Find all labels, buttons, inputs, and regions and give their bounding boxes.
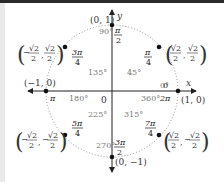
svg-text:): ) xyxy=(201,129,210,154)
svg-text:2: 2 xyxy=(173,54,178,63)
rad-3pi-2-num: 3π xyxy=(115,138,126,147)
coord-1-0: (1, 0) xyxy=(181,95,205,105)
point-270 xyxy=(110,155,115,160)
rad-7pi-4-den: 4 xyxy=(148,129,153,138)
coord-0-neg1: (0, −1) xyxy=(115,157,147,167)
svg-text:√2: √2 xyxy=(48,131,58,140)
rad-3pi-2-den: 2 xyxy=(117,148,122,157)
svg-text:2: 2 xyxy=(29,141,34,150)
svg-text:√2: √2 xyxy=(27,131,37,140)
coord-q2: ( − √2 2 , √2 2 ) xyxy=(17,42,65,67)
svg-text:√2: √2 xyxy=(171,44,181,53)
svg-text:,: , xyxy=(183,51,186,60)
coord-0-1: (0, 1) xyxy=(90,15,114,25)
svg-text:√2: √2 xyxy=(190,131,200,140)
deg-360: 360° xyxy=(141,94,160,103)
deg-270: 270° xyxy=(96,141,115,150)
svg-text:,: , xyxy=(38,138,41,147)
svg-text:,: , xyxy=(41,51,44,60)
svg-text:2: 2 xyxy=(171,141,176,150)
coord-q3: ( − √2 2 , − √2 2 ) xyxy=(15,129,68,154)
svg-text:√2: √2 xyxy=(29,44,39,53)
rad-pi-4-num: π xyxy=(144,48,151,57)
point-0 xyxy=(176,89,181,94)
svg-text:2: 2 xyxy=(190,54,195,63)
unit-circle-diagram: y x 0 0° 360° 45° 90° 135° 180° 225° 270… xyxy=(0,0,224,182)
svg-text:√2: √2 xyxy=(188,44,198,53)
point-45 xyxy=(157,45,162,50)
x-axis-label: x xyxy=(186,78,191,88)
deg-90: 90° xyxy=(99,27,113,36)
svg-text:): ) xyxy=(59,129,68,154)
rad-0: 0 xyxy=(163,81,168,90)
deg-180: 180° xyxy=(69,94,88,103)
rad-pi-4-den: 4 xyxy=(146,58,151,67)
svg-text:,: , xyxy=(180,138,183,147)
origin-label: 0 xyxy=(101,95,107,105)
svg-text:): ) xyxy=(199,42,208,67)
deg-315: 315° xyxy=(124,110,143,119)
rad-3pi-4-num: 3π xyxy=(72,48,83,57)
rad-5pi-4-num: 5π xyxy=(72,119,83,128)
svg-text:√2: √2 xyxy=(45,44,55,53)
svg-text:2: 2 xyxy=(47,54,52,63)
rad-3pi-4-den: 4 xyxy=(75,58,80,67)
svg-text:2: 2 xyxy=(192,141,197,150)
rad-pi-2-num: π xyxy=(114,26,121,35)
deg-225: 225° xyxy=(88,110,107,119)
rad-pi: π xyxy=(49,94,56,103)
rad-7pi-4-num: 7π xyxy=(145,119,156,128)
point-315 xyxy=(157,133,162,138)
point-180 xyxy=(44,89,49,94)
rad-pi-2-den: 2 xyxy=(116,36,121,45)
y-axis-label: y xyxy=(116,11,123,21)
svg-text:√2: √2 xyxy=(169,131,179,140)
deg-45: 45° xyxy=(127,68,141,77)
svg-text:2: 2 xyxy=(50,141,55,150)
coord-neg1-0: (−1, 0) xyxy=(24,78,56,88)
coord-q1: ( √2 2 , √2 2 ) xyxy=(165,42,208,67)
deg-135: 135° xyxy=(88,68,107,77)
rad-2pi: 2π xyxy=(159,94,171,103)
svg-text:2: 2 xyxy=(31,54,36,63)
coord-q4: ( √2 2 , − √2 2 ) xyxy=(163,129,210,154)
svg-text:): ) xyxy=(56,42,65,67)
rad-5pi-4-den: 4 xyxy=(75,129,80,138)
